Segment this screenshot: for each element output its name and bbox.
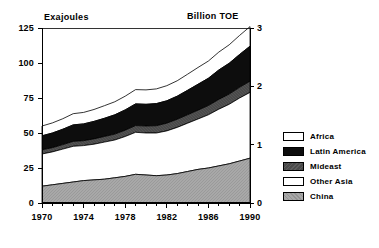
y-tick-label-left: 100 (8, 58, 34, 68)
chart-legend: AfricaLatin AmericaMideastOther AsiaChin… (283, 129, 377, 204)
legend-label: Latin America (310, 147, 366, 156)
legend-swatch-icon (283, 162, 304, 171)
y-tick-label-right: 2 (257, 81, 277, 91)
legend-item[interactable]: China (283, 189, 377, 204)
x-tick-label: 1986 (188, 212, 228, 222)
area-bands (42, 27, 250, 203)
legend-label: China (310, 192, 333, 201)
y-tick-label-left: 50 (8, 128, 34, 138)
x-tick-label: 1974 (64, 212, 104, 222)
legend-label: Africa (310, 132, 334, 141)
legend-label: Other Asia (310, 177, 353, 186)
y-tick-label-right: 0 (257, 198, 277, 208)
y-tick-label-left: 75 (8, 93, 34, 103)
y-tick-label-right: 1 (257, 140, 277, 150)
legend-swatch-icon (283, 147, 304, 156)
legend-label: Mideast (310, 162, 342, 171)
plot-area (0, 0, 379, 248)
x-tick-label: 1982 (147, 212, 187, 222)
y-tick-label-right: 3 (257, 23, 277, 33)
legend-swatch-icon (283, 132, 304, 141)
x-tick-label: 1978 (105, 212, 145, 222)
legend-item[interactable]: Other Asia (283, 174, 377, 189)
legend-swatch-icon (283, 192, 304, 201)
legend-item[interactable]: Mideast (283, 159, 377, 174)
stacked-area-chart: Exajoules Billion TOE 0255075100125 0123… (0, 0, 379, 248)
legend-item[interactable]: Latin America (283, 144, 377, 159)
legend-swatch-icon (283, 177, 304, 186)
x-tick-label: 1990 (230, 212, 270, 222)
x-tick-label: 1970 (22, 212, 62, 222)
y-tick-label-left: 0 (8, 198, 34, 208)
y-tick-label-left: 125 (8, 23, 34, 33)
legend-item[interactable]: Africa (283, 129, 377, 144)
y-tick-label-left: 25 (8, 163, 34, 173)
